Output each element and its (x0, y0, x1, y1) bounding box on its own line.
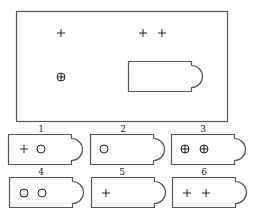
option-card-2[interactable] (91, 135, 165, 165)
option-label-1: 1 (31, 124, 51, 134)
option-card-6[interactable] (173, 178, 247, 208)
option-card-1[interactable] (9, 135, 83, 165)
option-label-5: 5 (112, 167, 132, 177)
option-label-3: 3 (193, 124, 213, 134)
diagram-canvas (0, 0, 253, 218)
option-label-2: 2 (113, 124, 133, 134)
option-card-5[interactable] (92, 178, 166, 208)
circled-plus-icon (57, 73, 65, 81)
option-card-4[interactable] (10, 178, 84, 208)
card-slot (129, 62, 203, 92)
option-label-6: 6 (194, 167, 214, 177)
option-label-4: 4 (31, 167, 51, 177)
plus-icon (139, 29, 147, 37)
plus-icon (57, 29, 65, 37)
option-card-3[interactable] (172, 135, 246, 165)
plus-icon (158, 29, 166, 37)
